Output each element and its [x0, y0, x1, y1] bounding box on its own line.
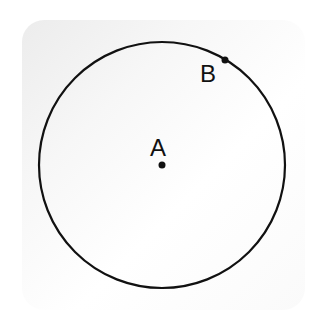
- point-a-label: A: [150, 134, 166, 161]
- circle-diagram: A B: [0, 0, 320, 326]
- point-a-dot: [159, 162, 166, 169]
- point-b-dot: [222, 57, 229, 64]
- point-b-label: B: [200, 60, 216, 87]
